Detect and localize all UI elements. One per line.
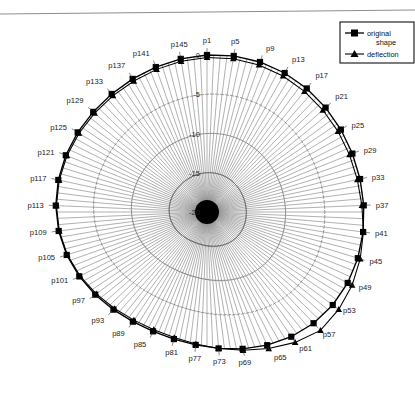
spoke-tick bbox=[148, 250, 150, 253]
spoke-tick bbox=[280, 118, 283, 121]
spoke-tick bbox=[153, 295, 156, 297]
spoke-tick bbox=[250, 272, 253, 274]
point-label: p129 bbox=[67, 96, 84, 105]
spoke-tick bbox=[247, 273, 250, 275]
point-label: p117 bbox=[30, 174, 46, 183]
spoke-tick bbox=[311, 157, 313, 161]
spoke-tick bbox=[223, 314, 227, 315]
point-label: p145 bbox=[171, 40, 188, 49]
point-label: p125 bbox=[50, 123, 67, 132]
point-label: p69 bbox=[239, 358, 252, 367]
point-label: p29 bbox=[364, 146, 377, 155]
spoke-tick bbox=[119, 269, 121, 272]
point-label: p41 bbox=[375, 229, 388, 238]
spoke-tick bbox=[255, 310, 259, 312]
spoke-tick bbox=[244, 275, 247, 277]
scan-edge-line bbox=[0, 10, 415, 14]
point-label: p57 bbox=[323, 330, 336, 339]
spoke-tick bbox=[225, 95, 229, 96]
spoke-tick bbox=[264, 306, 267, 308]
spoke-tick bbox=[277, 300, 280, 303]
spoke-tick bbox=[303, 276, 305, 279]
spoke-tick bbox=[268, 109, 271, 111]
radial-tick-label: -10 bbox=[189, 130, 200, 139]
spoke-tick bbox=[260, 308, 263, 310]
point-label: p37 bbox=[376, 201, 389, 210]
point-label: p13 bbox=[292, 55, 305, 64]
radial-tick-label: -5 bbox=[193, 90, 200, 99]
spoke-tick bbox=[161, 299, 165, 301]
point-label: p17 bbox=[315, 71, 328, 80]
point-label: p93 bbox=[92, 316, 105, 325]
chart-svg: 0-5-10-15-20 p1p5p9p13p17p21p25p29p33p37… bbox=[0, 0, 415, 411]
spoke-tick bbox=[220, 94, 224, 95]
legend-label-original-line2: shape bbox=[376, 38, 396, 47]
spoke-tick bbox=[273, 302, 276, 304]
spoke-tick bbox=[117, 139, 120, 142]
spoke-tick bbox=[94, 196, 95, 200]
spoke-tick bbox=[276, 115, 279, 117]
square-marker-icon bbox=[351, 30, 358, 37]
point-label: p109 bbox=[30, 228, 47, 237]
point-label: p61 bbox=[299, 344, 312, 353]
spoke-tick bbox=[163, 263, 166, 266]
point-label: p97 bbox=[72, 296, 85, 305]
spoke-tick bbox=[94, 191, 95, 195]
spoke-tick bbox=[150, 252, 152, 255]
spoke-tick bbox=[298, 136, 301, 139]
point-label: p33 bbox=[372, 173, 385, 182]
spoke-tick bbox=[309, 268, 311, 271]
legend-label-original-line1: original bbox=[367, 29, 391, 38]
spoke-tick bbox=[154, 109, 158, 111]
spoke-tick bbox=[192, 310, 196, 311]
spoke-tick bbox=[253, 270, 256, 273]
spoke-tick bbox=[297, 284, 300, 287]
square-marker bbox=[288, 334, 294, 340]
radial-tick-label: -15 bbox=[189, 169, 200, 178]
point-label: p77 bbox=[189, 354, 202, 363]
radial-tick-label: 0 bbox=[196, 51, 200, 60]
spoke-tick bbox=[259, 104, 263, 106]
polar-deflection-chart: 0-5-10-15-20 p1p5p9p13p17p21p25p29p33p37… bbox=[0, 0, 415, 411]
spoke-tick bbox=[269, 304, 272, 306]
spoke-tick bbox=[104, 159, 106, 163]
point-label: p81 bbox=[165, 348, 178, 357]
spoke-tick bbox=[144, 245, 146, 248]
spoke-tick bbox=[97, 229, 98, 233]
spoke-tick bbox=[188, 309, 192, 310]
spoke-tick bbox=[142, 289, 145, 292]
spoke-tick bbox=[185, 97, 189, 98]
spoke-tick bbox=[141, 116, 144, 118]
spoke-tick bbox=[263, 107, 266, 109]
spoke-tick bbox=[113, 262, 115, 265]
point-label: p137 bbox=[108, 61, 125, 70]
spoke-tick bbox=[133, 220, 134, 224]
legend: original shape deflection bbox=[340, 22, 414, 63]
spoke-tick bbox=[218, 314, 222, 315]
label-leader-line bbox=[315, 325, 318, 329]
point-label: p9 bbox=[266, 44, 274, 53]
spoke-tick bbox=[300, 280, 302, 283]
spoke-tick bbox=[168, 266, 171, 268]
point-label: p141 bbox=[133, 49, 150, 58]
spoke-tick bbox=[112, 147, 114, 150]
spoke-tick bbox=[134, 122, 137, 125]
legend-label-deflection: deflection bbox=[367, 50, 399, 59]
point-label: p21 bbox=[335, 92, 348, 101]
point-label: p89 bbox=[112, 329, 125, 338]
point-label: p1 bbox=[203, 36, 211, 45]
triangle-marker bbox=[335, 306, 342, 312]
spoke-tick bbox=[301, 140, 303, 143]
spoke-tick bbox=[109, 151, 111, 154]
spoke-tick bbox=[312, 263, 314, 267]
spoke-tick bbox=[272, 112, 275, 114]
point-label: p85 bbox=[134, 340, 147, 349]
spoke-tick bbox=[114, 143, 116, 146]
spoke-tick bbox=[197, 278, 201, 279]
spoke-tick bbox=[125, 275, 128, 278]
radial-tick-label: -20 bbox=[189, 208, 200, 217]
spoke-tick bbox=[157, 297, 160, 299]
spoke-tick bbox=[146, 291, 149, 293]
spoke-tick bbox=[241, 276, 244, 278]
spoke-tick bbox=[324, 225, 325, 229]
